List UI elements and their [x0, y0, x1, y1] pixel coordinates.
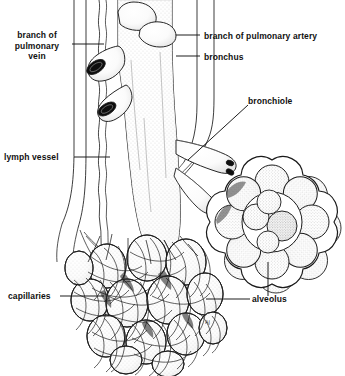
artist-signature: AJ [205, 319, 211, 326]
label-capillaries: capillaries [8, 291, 51, 302]
label-line-2: pulmonary [15, 41, 59, 51]
label-branch-of-pulmonary-vein: branch of pulmonary vein [4, 30, 70, 62]
label-alveolus: alveolus [252, 294, 287, 305]
label-line-3: vein [28, 51, 45, 61]
label-bronchiole: bronchiole [248, 96, 292, 107]
label-line-1: branch of [17, 30, 57, 40]
label-bronchus: bronchus [204, 52, 244, 63]
lung-respiratory-unit-figure: AJ branch of pulmonary vein branch of p [0, 0, 345, 376]
label-lymph-vessel: lymph vessel [4, 152, 59, 163]
label-branch-of-pulmonary-artery: branch of pulmonary artery [204, 31, 317, 42]
